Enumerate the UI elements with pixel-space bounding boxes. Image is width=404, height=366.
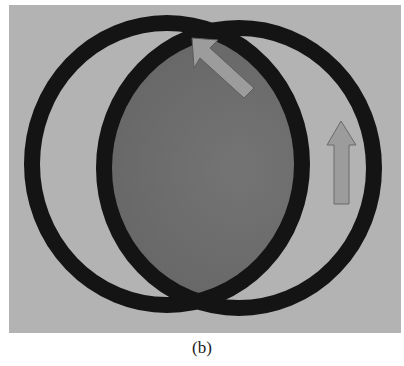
figure-caption: (b) xyxy=(0,338,404,358)
figure: (b) xyxy=(0,0,404,366)
venn-lens-diagram xyxy=(0,0,404,366)
